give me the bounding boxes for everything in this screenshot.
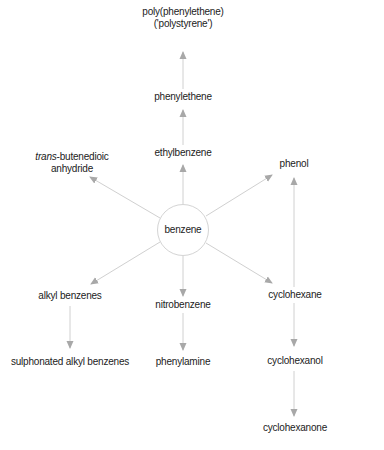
- node-nitrobenzene: nitrobenzene: [155, 299, 210, 311]
- node-ethylbenzene: ethylbenzene: [154, 147, 211, 159]
- node-anhydride-line1: trans-butenedioic: [35, 151, 108, 163]
- node-phenylamine: phenylamine: [156, 356, 211, 368]
- node-cyclohexanone: cyclohexanone: [263, 422, 327, 434]
- arrow-benzene-phenol: [206, 175, 272, 216]
- node-cyclohexane: cyclohexane: [268, 289, 321, 301]
- node-polystyrene-line1: poly(phenylethene): [142, 6, 223, 18]
- node-phenylethene: phenylethene: [154, 91, 212, 103]
- node-alkyl-benzenes: alkyl benzenes: [38, 290, 101, 302]
- benzene-products-diagram: benzene poly(phenylethene) ('polystyrene…: [0, 0, 384, 450]
- node-trans-butenedioic-anhydride: trans-butenedioic anhydride: [35, 151, 108, 175]
- node-polystyrene: poly(phenylethene) ('polystyrene'): [142, 6, 223, 30]
- node-sulphonated-alkyl-benzenes: sulphonated alkyl benzenes: [11, 356, 129, 368]
- arrow-benzene-cyclohexane: [206, 243, 272, 283]
- node-cyclohexanol: cyclohexanol: [267, 355, 322, 367]
- trans-prefix: trans: [35, 151, 56, 162]
- arrow-benzene-alkylbenzenes: [91, 242, 160, 284]
- arrow-benzene-anhydride: [90, 177, 160, 218]
- node-phenol: phenol: [280, 158, 309, 170]
- butenedioic-text: -butenedioic: [57, 151, 109, 162]
- node-anhydride-line2: anhydride: [35, 163, 108, 175]
- node-benzene: benzene: [165, 224, 202, 236]
- node-polystyrene-line2: ('polystyrene'): [142, 18, 223, 30]
